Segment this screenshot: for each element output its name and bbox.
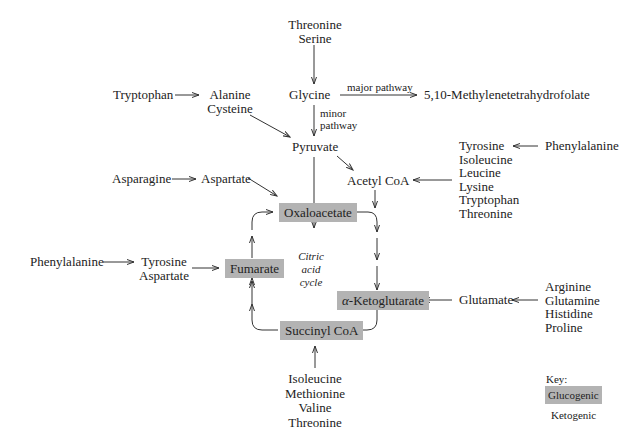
aspartate-node: Aspartate (201, 172, 251, 186)
threonine-label: Threonine (283, 416, 347, 431)
threonine-serine-label: Threonine Serine (286, 18, 344, 46)
acetyl-coa-node: Acetyl CoA (347, 174, 409, 188)
oxaloacetate-box: Oxaloacetate (279, 203, 357, 222)
isoleucine-label: Isoleucine (283, 372, 347, 387)
leucine-label: Leucine (459, 166, 519, 180)
citric-acid-cycle-label: Citric acid cycle (286, 250, 336, 289)
ketoglutarate-label: -Ketoglutarate (349, 293, 424, 308)
acid-label: acid (286, 263, 336, 276)
methylenetetrahydrofolate-node: 5,10-Methylenetetrahydrofolate (424, 88, 590, 102)
alpha-symbol: α (342, 293, 349, 308)
valine-label: Valine (283, 401, 347, 416)
pathway-label: pathway (320, 119, 357, 131)
succinyl-coa-box: Succinyl CoA (280, 321, 363, 340)
aspartate-label: Aspartate (138, 269, 190, 283)
alpha-ketoglutarate-box: α-Ketoglutarate (337, 291, 429, 310)
glutamate-node: Glutamate (459, 293, 513, 307)
tyrosine-label: Tyrosine (138, 255, 190, 269)
alanine-cysteine-node: Alanine Cysteine (204, 88, 256, 116)
histidine-label: Histidine (545, 307, 600, 321)
ketogenic-sources-list: Tyrosine Isoleucine Leucine Lysine Trypt… (459, 139, 519, 220)
succinyl-sources-list: Isoleucine Methionine Valine Threonine (283, 372, 347, 430)
asparagine-node: Asparagine (112, 172, 171, 186)
glutamate-sources-list: Arginine Glutamine Histidine Proline (545, 280, 600, 334)
glycine-node: Glycine (289, 88, 330, 102)
arginine-label: Arginine (545, 280, 600, 294)
tyrosine-label: Tyrosine (459, 139, 519, 153)
serine-label: Serine (286, 32, 344, 46)
threonine-label: Threonine (459, 207, 519, 221)
threonine-label: Threonine (286, 18, 344, 32)
major-pathway-label: major pathway (347, 81, 413, 93)
alanine-label: Alanine (204, 88, 256, 102)
lysine-label: Lysine (459, 180, 519, 194)
cycle-label: cycle (286, 276, 336, 289)
phenylalanine-right-node: Phenylalanine (545, 139, 619, 153)
isoleucine-label: Isoleucine (459, 153, 519, 167)
phenylalanine-left-node: Phenylalanine (30, 255, 104, 269)
minor-label: minor (320, 107, 357, 119)
pyruvate-node: Pyruvate (292, 140, 338, 154)
minor-pathway-label: minor pathway (320, 107, 357, 131)
key-ketogenic: Ketogenic (548, 406, 599, 424)
key-title: Key: (546, 373, 567, 385)
tyrosine-aspartate-node: Tyrosine Aspartate (138, 255, 190, 283)
citric-label: Citric (286, 250, 336, 263)
glutamine-label: Glutamine (545, 294, 600, 308)
methionine-label: Methionine (283, 387, 347, 402)
tryptophan-node: Tryptophan (113, 88, 173, 102)
key-glucogenic: Glucogenic (545, 386, 602, 404)
proline-label: Proline (545, 321, 600, 335)
cysteine-label: Cysteine (204, 102, 256, 116)
tryptophan-label: Tryptophan (459, 193, 519, 207)
fumarate-box: Fumarate (225, 259, 284, 278)
